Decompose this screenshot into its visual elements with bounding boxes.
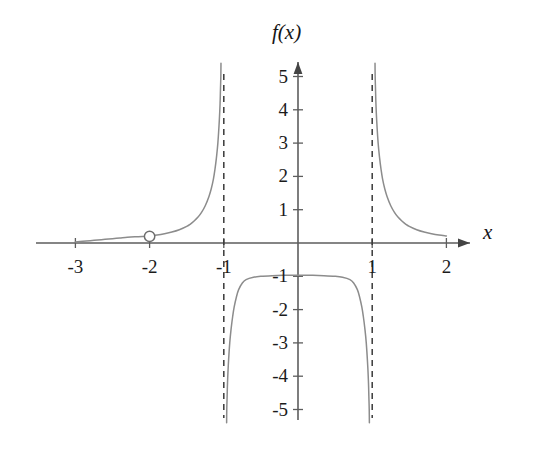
axes-group [36,62,470,420]
x-axis-arrowhead [458,239,470,248]
x-tick-label: 2 [432,257,460,276]
y-tick-label: 3 [254,133,288,152]
y-tick-label: -3 [254,333,288,352]
function-graph-figure: -3-2-112 54321-1-2-3-4-5 f(x) x [0,0,535,450]
y-tick-label: 4 [254,100,288,119]
curve-right-branch [375,63,446,236]
y-tick-label: -4 [254,366,288,385]
y-axis-arrowhead [294,62,303,74]
open-circle-points [144,231,154,241]
x-tick-label: -2 [136,257,164,276]
x-axis-label: x [483,222,492,243]
open-circle-point [144,231,154,241]
y-tick-label: 2 [254,166,288,185]
y-tick-label: -1 [254,266,288,285]
x-tick-label: 1 [358,257,386,276]
x-tick-label: -1 [210,257,238,276]
y-tick-label: 5 [254,67,288,86]
curve-left-branch [75,63,221,242]
y-tick-label: -2 [254,300,288,319]
y-axis-label: f(x) [272,22,301,43]
y-tick-label: 1 [254,200,288,219]
x-tick-label: -3 [61,257,89,276]
y-tick-label: -5 [254,400,288,419]
